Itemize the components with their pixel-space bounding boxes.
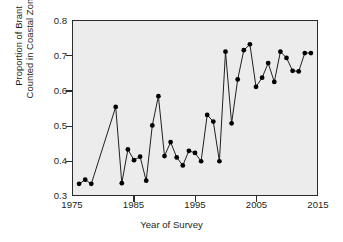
data-point xyxy=(302,51,307,56)
data-point xyxy=(162,154,167,159)
x-tick-label-2005: 2005 xyxy=(237,199,277,210)
data-point xyxy=(260,75,265,80)
data-point xyxy=(199,159,204,164)
data-point xyxy=(138,154,143,159)
data-point xyxy=(144,178,149,183)
data-point xyxy=(126,147,131,152)
data-point xyxy=(278,49,283,54)
x-tick-label-1975: 1975 xyxy=(52,199,92,210)
data-point xyxy=(205,113,210,118)
y-tick-label-0-7: 0.7 xyxy=(39,50,67,61)
data-point xyxy=(290,68,295,73)
data-point xyxy=(113,105,118,110)
series-line xyxy=(79,44,311,184)
data-series-brant-proportion xyxy=(73,21,317,195)
y-tick-label-0-6: 0.6 xyxy=(39,85,67,96)
data-point xyxy=(309,51,314,56)
data-point xyxy=(119,181,124,186)
data-point xyxy=(284,56,289,61)
data-point xyxy=(217,159,222,164)
data-point xyxy=(266,61,271,66)
data-point xyxy=(132,158,137,163)
data-point xyxy=(77,181,82,186)
data-point xyxy=(193,151,198,156)
data-point xyxy=(168,140,173,145)
y-tick-label-0-4: 0.4 xyxy=(39,155,67,166)
data-point xyxy=(248,42,253,47)
data-point xyxy=(83,177,88,182)
x-axis-title: Year of Survey xyxy=(0,219,343,230)
y-tick-label-0-5: 0.5 xyxy=(39,120,67,131)
data-point xyxy=(156,94,161,99)
data-point xyxy=(223,49,228,54)
x-tick-label-1995: 1995 xyxy=(175,199,215,210)
plot-area xyxy=(72,20,318,196)
data-point xyxy=(235,77,240,82)
data-point xyxy=(174,155,179,160)
data-point xyxy=(296,69,301,74)
y-axis-title: Proportion of Brant Counted in Coastal Z… xyxy=(12,0,36,130)
data-point xyxy=(180,163,185,168)
y-axis-title-text: Proportion of Brant Counted in Coastal Z… xyxy=(13,0,36,98)
chart-figure: Proportion of Brant Counted in Coastal Z… xyxy=(0,0,343,242)
x-tick-label-2015: 2015 xyxy=(298,199,338,210)
data-point xyxy=(229,121,234,126)
data-point xyxy=(254,84,259,89)
data-point xyxy=(187,148,192,153)
y-tick-label-0-8: 0.8 xyxy=(39,15,67,26)
data-point xyxy=(150,123,155,128)
data-point xyxy=(89,181,94,186)
data-point xyxy=(272,80,277,85)
x-tick-label-1985: 1985 xyxy=(114,199,154,210)
data-point xyxy=(241,48,246,53)
data-point xyxy=(211,119,216,124)
